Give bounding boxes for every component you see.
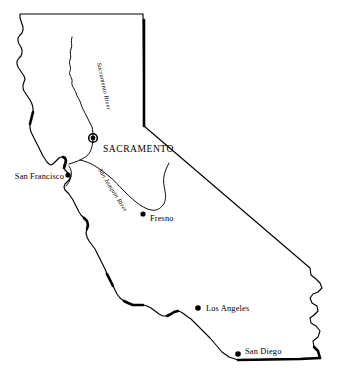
map-canvas: SACRAMENTO San Francisco Fresno Los Ange… (0, 0, 341, 374)
label-fresno: Fresno (150, 214, 174, 223)
coast-heavy-ink-bay (63, 157, 66, 168)
label-san-francisco: San Francisco (15, 172, 64, 181)
capital-dot-icon (91, 136, 96, 141)
city-dot-san-diego (235, 351, 241, 357)
california-map: SACRAMENTO San Francisco Fresno Los Ange… (0, 0, 341, 374)
label-los-angeles: Los Angeles (206, 304, 249, 313)
coast-heavy-ink-monterey (84, 218, 88, 229)
city-dot-san-francisco (65, 172, 70, 177)
label-sacramento: SACRAMENTO (103, 143, 174, 154)
city-dot-los-angeles (195, 305, 201, 311)
state-boundary-outline (17, 14, 322, 360)
label-san-diego: San Diego (245, 347, 281, 356)
city-dot-fresno (140, 211, 145, 216)
